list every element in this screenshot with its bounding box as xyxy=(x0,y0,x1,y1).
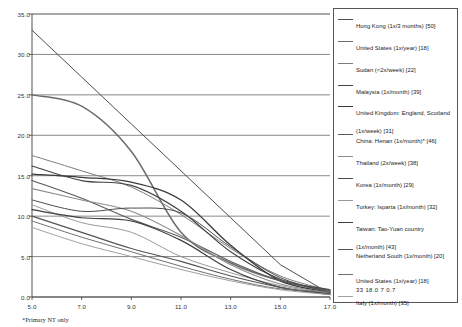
legend-item[interactable]: Italy (1x/month) [35] xyxy=(338,291,454,309)
y-axis-tick-label: 5.0 xyxy=(21,253,30,260)
legend-color-swatch xyxy=(338,293,353,300)
series-line xyxy=(32,166,330,290)
legend-label: Italy (1x/month) [35] xyxy=(356,300,409,306)
legend-color-swatch xyxy=(338,60,353,67)
legend-label: Netherland South (1x/month) [20] xyxy=(356,253,444,259)
y-axis-tick-label: 25.0 xyxy=(18,91,30,98)
y-axis-tick-label: 10.0 xyxy=(18,213,30,220)
caption-text: *Primary NT only xyxy=(22,316,69,323)
legend-color-swatch xyxy=(338,246,353,253)
legend-label: United States (1x/year) [18] xyxy=(356,45,429,51)
x-axis-tick-labels: 5.07.09.011.013.015.017.0 xyxy=(0,297,340,311)
x-axis-tick-label: 9.0 xyxy=(127,303,136,310)
legend-label: Thailand (2x/week) [38] xyxy=(356,160,418,166)
legend-color-swatch xyxy=(338,175,353,182)
legend-label: Hong Kong (1x/3 months) [50] xyxy=(356,23,435,29)
legend-color-swatch xyxy=(338,271,353,278)
legend-item[interactable]: Turkey: Isparta (1x/month) [32] xyxy=(338,195,454,213)
plot-area: 0.05.010.015.020.025.030.035.0 5.07.09.0… xyxy=(0,0,340,310)
figure-container: 0.05.010.015.020.025.030.035.0 5.07.09.0… xyxy=(0,0,462,327)
legend-label: China: Henan (1x/month)* [46] xyxy=(356,138,436,144)
legend-label: Turkey: Isparta (1x/month) [32] xyxy=(356,204,437,210)
legend-color-swatch xyxy=(338,197,353,204)
x-axis-tick-label: 15.0 xyxy=(274,303,286,310)
legend-item[interactable]: United States (1x/year) [18] xyxy=(338,36,454,54)
legend-item[interactable]: Thailand (2x/week) [38] xyxy=(338,151,454,169)
legend-color-swatch xyxy=(338,16,353,23)
legend-color-swatch xyxy=(338,153,353,160)
y-axis-tick-label: 35.0 xyxy=(18,11,30,18)
legend-item[interactable]: Netherland South (1x/month) [20] xyxy=(338,244,454,262)
y-axis-tick-label: 15.0 xyxy=(18,172,30,179)
x-axis-tick-label: 11.0 xyxy=(175,303,187,310)
x-axis-tick-label: 5.0 xyxy=(28,303,37,310)
legend-item[interactable]: Malaysia (1x/month) [39] xyxy=(338,80,454,98)
y-axis-tick-label: 20.0 xyxy=(18,132,30,139)
y-axis-tick-labels: 0.05.010.015.020.025.030.035.0 xyxy=(0,0,30,310)
series-line xyxy=(32,30,330,294)
legend-label: Korea (1x/month) [29] xyxy=(356,182,414,188)
legend-item[interactable]: Sudan (<2x/week) [22] xyxy=(338,58,454,76)
legend-color-swatch xyxy=(338,103,353,110)
legend-item[interactable]: China: Henan (1x/month)* [46] xyxy=(338,129,454,147)
legend-color-swatch xyxy=(338,131,353,138)
legend-item[interactable]: Korea (1x/month) [29] xyxy=(338,173,454,191)
x-axis-tick-label: 13.0 xyxy=(224,303,236,310)
legend-label: Malaysia (1x/month) [39] xyxy=(356,89,421,95)
legend-label: United States (1x/year) [18] xyxy=(356,278,429,284)
x-axis-tick-label: 17.0 xyxy=(324,303,336,310)
legend-item[interactable]: Hong Kong (1x/3 months) [50] xyxy=(338,14,454,32)
y-axis-tick-label: 30.0 xyxy=(18,51,30,58)
chart-legend: Hong Kong (1x/3 months) [50]United State… xyxy=(333,8,458,303)
legend-color-swatch xyxy=(338,219,353,226)
line-chart-svg xyxy=(0,0,340,310)
legend-label: Sudan (<2x/week) [22] xyxy=(356,67,416,73)
figure-caption: *Primary NT only xyxy=(22,316,452,324)
x-axis-tick-label: 7.0 xyxy=(77,303,86,310)
legend-color-swatch xyxy=(338,82,353,89)
legend-color-swatch xyxy=(338,38,353,45)
